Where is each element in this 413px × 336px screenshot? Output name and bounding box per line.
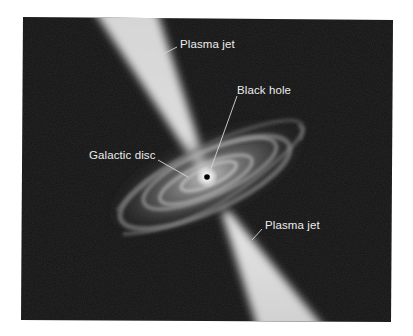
label-galactic-disc: Galactic disc <box>89 149 156 161</box>
label-black-hole: Black hole <box>237 84 291 96</box>
label-plasma-jet-top: Plasma jet <box>180 38 235 50</box>
black-hole <box>204 174 210 180</box>
label-plasma-jet-bottom: Plasma jet <box>265 219 320 231</box>
black-hole-diagram: Plasma jet Black hole Galactic disc Plas… <box>0 0 413 336</box>
